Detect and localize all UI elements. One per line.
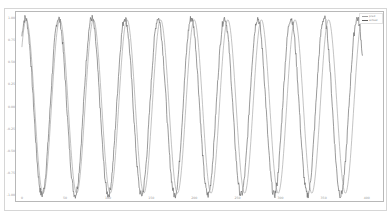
y-tick-label: 1.00 [5,16,15,20]
legend-swatch-actual [362,20,368,21]
y-tick-label: 0.75 [5,38,15,42]
y-tick-label: -0.25 [5,127,15,131]
y-tick-label: 0.50 [5,60,15,64]
y-tick-label: 0.25 [5,82,15,86]
series-pred [22,20,363,193]
legend: pred actual [359,13,383,24]
y-tick-label: -0.50 [5,149,15,153]
y-tick-label: -0.75 [5,171,15,175]
legend-item-actual: actual [360,18,382,22]
line-plot [15,11,384,202]
legend-swatch-pred [362,16,368,17]
legend-label-actual: actual [369,18,378,22]
y-tick-label: 0.00 [5,105,15,109]
y-tick-label: -1.00 [5,193,15,197]
